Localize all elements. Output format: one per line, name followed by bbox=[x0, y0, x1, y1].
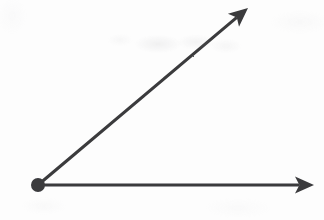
angle-diagram-canvas bbox=[0, 0, 324, 220]
vertex-point bbox=[31, 178, 45, 192]
paper-background bbox=[0, 0, 324, 220]
angle-diagram-figure bbox=[0, 0, 324, 220]
